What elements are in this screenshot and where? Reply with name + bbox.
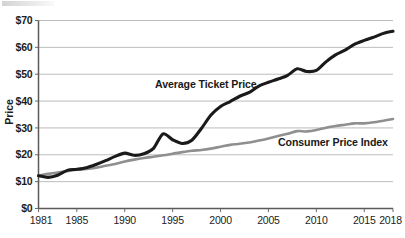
y-tick-label-20: $20 bbox=[16, 148, 33, 160]
x-tick-label-1995: 1995 bbox=[161, 214, 184, 226]
x-tick-label-1990: 1990 bbox=[113, 214, 136, 226]
line-chart: $0$10$20$30$40$50$60$70 1981198519901995… bbox=[0, 0, 405, 238]
axes bbox=[39, 21, 394, 209]
x-tick-label-2015: 2015 bbox=[353, 214, 376, 226]
y-tick-label-50: $50 bbox=[16, 68, 33, 80]
data-series bbox=[39, 31, 394, 177]
y-tick-label-0: $0 bbox=[21, 202, 33, 214]
chart-container: $0$10$20$30$40$50$60$70 1981198519901995… bbox=[0, 0, 405, 238]
x-tick-label-1985: 1985 bbox=[66, 214, 89, 226]
y-tick-label-40: $40 bbox=[16, 95, 33, 107]
x-tick-label-2010: 2010 bbox=[305, 214, 328, 226]
y-axis-tick-labels: $0$10$20$30$40$50$60$70 bbox=[16, 14, 33, 214]
y-tick-label-10: $10 bbox=[16, 175, 33, 187]
tick-marks bbox=[35, 21, 393, 213]
x-tick-label-2018: 2018 bbox=[379, 214, 402, 226]
y-tick-label-60: $60 bbox=[16, 41, 33, 53]
series-line-average-ticket-price bbox=[39, 31, 394, 177]
annotation-consumer-price-index: Consumer Price Index bbox=[278, 136, 388, 148]
y-tick-label-30: $30 bbox=[16, 122, 33, 134]
x-tick-label-2000: 2000 bbox=[209, 214, 232, 226]
x-tick-label-1981: 1981 bbox=[30, 214, 53, 226]
gridlines bbox=[39, 21, 394, 182]
y-tick-label-70: $70 bbox=[16, 14, 33, 26]
x-tick-label-2005: 2005 bbox=[257, 214, 280, 226]
annotation-average-ticket-price: Average Ticket Price bbox=[155, 78, 257, 90]
y-axis-title: Price bbox=[3, 99, 15, 125]
x-axis-tick-labels: 198119851990199520002005201020152018 bbox=[30, 214, 402, 226]
